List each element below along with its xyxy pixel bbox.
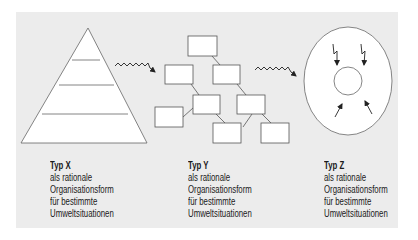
caption-line: als rationale: [188, 172, 252, 184]
wavy-arrow-icon: [115, 63, 155, 72]
org-box: [237, 95, 265, 114]
network-shape: [155, 36, 289, 143]
pyramid-shape: [21, 28, 147, 143]
org-box: [188, 36, 217, 56]
caption-line: Umweltsituationen: [188, 208, 252, 220]
caption-title: Typ X: [50, 160, 114, 172]
caption-line: Umweltsituationen: [50, 208, 114, 220]
org-box: [155, 107, 183, 127]
org-box: [213, 123, 241, 143]
caption-line: Organisationsform: [188, 184, 252, 196]
caption-title: Typ Z: [324, 160, 388, 172]
wavy-arrow-icon: [255, 67, 296, 76]
caption-typ-z: Typ Z als rationale Organisationsform fü…: [324, 160, 388, 220]
org-box: [165, 65, 193, 84]
caption-line: Umweltsituationen: [324, 208, 388, 220]
org-box: [193, 95, 220, 114]
org-box: [213, 65, 240, 84]
caption-line: für bestimmte: [50, 196, 114, 208]
caption-title: Typ Y: [188, 160, 252, 172]
caption-typ-x: Typ X als rationale Organisationsform fü…: [50, 160, 114, 220]
caption-line: Organisationsform: [50, 184, 114, 196]
caption-line: für bestimmte: [324, 196, 388, 208]
core-circle: [334, 67, 362, 95]
caption-line: Organisationsform: [324, 184, 388, 196]
caption-typ-y: Typ Y als rationale Organisationsform fü…: [188, 160, 252, 220]
circle-shape: [304, 27, 392, 135]
org-box: [261, 123, 289, 143]
caption-line: für bestimmte: [188, 196, 252, 208]
caption-line: als rationale: [324, 172, 388, 184]
caption-line: als rationale: [50, 172, 114, 184]
